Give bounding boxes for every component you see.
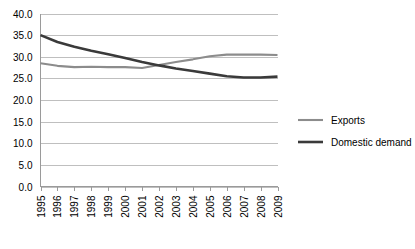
x-axis-tick-label: 2004 [188,195,199,218]
x-axis-tick-label: 2006 [222,195,233,218]
gridlines [41,15,278,188]
y-axis-tick-label: 25.0 [13,73,33,84]
y-axis-tick-label: 15.0 [13,117,33,128]
x-axis-tick-label: 2005 [205,195,216,218]
x-axis-tick-label: 2009 [273,195,284,218]
y-axis-tick-label: 20.0 [13,95,33,106]
chart-legend: ExportsDomestic demand [298,115,412,148]
x-axis-tick-label: 2003 [171,195,182,218]
data-series [41,35,278,77]
y-axis-tick-label: 10.0 [13,138,33,149]
legend-label-exports: Exports [331,115,365,126]
x-axis-tick-label: 1999 [103,195,114,218]
y-axis-tick-label: 35.0 [13,30,33,41]
y-axis-tick-label: 30.0 [13,52,33,63]
x-axis-tick-labels: 1995199619971998199920002001200220032004… [36,195,284,218]
x-axis-tick-label: 2001 [137,195,148,218]
y-axis-tick-label: 5.0 [19,160,33,171]
y-axis-tick-label: 0.0 [19,182,33,193]
axes [41,14,279,191]
x-axis-tick-label: 1997 [69,195,80,218]
x-axis-tick-label: 1998 [86,195,97,218]
x-axis-tick-label: 1996 [52,195,63,218]
y-axis-tick-label: 40.0 [13,9,33,20]
legend-label-domestic-demand: Domestic demand [331,137,412,148]
line-chart: 0.05.010.015.020.025.030.035.040.0 19951… [0,0,415,249]
x-axis-tick-label: 2002 [154,195,165,218]
chart-canvas: 0.05.010.015.020.025.030.035.040.0 19951… [0,0,415,249]
x-axis-tick-label: 2008 [256,195,267,218]
x-axis-tick-label: 2000 [120,195,131,218]
series-line-domestic-demand [41,35,278,77]
y-axis-tick-labels: 0.05.010.015.020.025.030.035.040.0 [13,9,33,193]
x-axis-tick-label: 1995 [36,195,47,218]
x-axis-tick-label: 2007 [239,195,250,218]
